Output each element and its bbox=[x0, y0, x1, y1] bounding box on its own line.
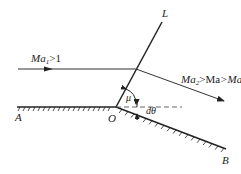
wall-ao bbox=[17, 107, 116, 111]
downstream-mach-label: Ma2>Ma>Ma1 bbox=[180, 73, 241, 87]
upstream-arrow-icon bbox=[44, 67, 53, 72]
mach-angle-label: μ bbox=[125, 92, 131, 103]
point-a-label: A bbox=[14, 111, 22, 123]
mach-line-label: L bbox=[161, 7, 168, 19]
deflection-angle-label: dθ bbox=[146, 105, 156, 116]
point-o-label: O bbox=[108, 112, 116, 124]
expansion-diagram: Ma1>1 Ma2>Ma>Ma1 L A O B μ dθ bbox=[0, 0, 241, 174]
upstream-mach-label: Ma1>1 bbox=[30, 52, 61, 66]
point-b-label: B bbox=[222, 154, 229, 166]
wall-ob bbox=[116, 107, 226, 152]
diagram-svg: Ma1>1 Ma2>Ma>Ma1 L A O B μ dθ bbox=[0, 0, 241, 174]
mach-line bbox=[116, 22, 162, 107]
